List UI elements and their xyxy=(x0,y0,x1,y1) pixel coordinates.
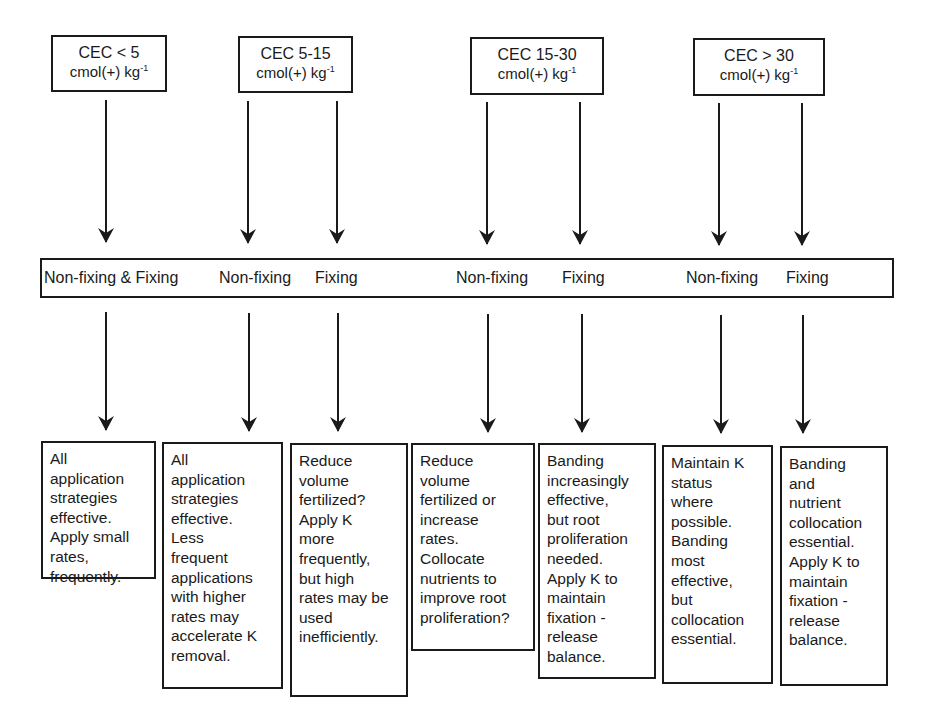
cec-box-gt30: CEC > 30 cmol(+) kg-1 xyxy=(693,38,825,96)
cec-box-lt5: CEC < 5 cmol(+) kg-1 xyxy=(51,35,167,92)
cec-unit: cmol(+) kg-1 xyxy=(695,65,823,84)
cec-label: CEC > 30 xyxy=(695,46,823,65)
clay-type-label: Fixing xyxy=(562,269,605,287)
cec-box-5-15: CEC 5-15 cmol(+) kg-1 xyxy=(238,36,353,93)
clay-type-label: Fixing xyxy=(786,269,829,287)
cec-label: CEC 15-30 xyxy=(472,45,602,64)
recommendation-box-4: Reduce volume fertilized or increase rat… xyxy=(411,443,535,651)
cec-box-15-30: CEC 15-30 cmol(+) kg-1 xyxy=(470,37,604,95)
recommendation-box-7: Banding and nutrient collocation essenti… xyxy=(780,446,888,686)
cec-unit: cmol(+) kg-1 xyxy=(240,63,351,82)
clay-type-bar: Non-fixing & Fixing Non-fixing Fixing No… xyxy=(40,258,894,298)
bottom-arrows xyxy=(106,312,803,433)
cec-label: CEC 5-15 xyxy=(240,44,351,63)
cec-label: CEC < 5 xyxy=(53,43,165,62)
recommendation-box-1: All application strategies effective. Ap… xyxy=(41,441,156,579)
recommendation-box-3: Reduce volume fertilized? Apply K more f… xyxy=(290,443,408,697)
cec-unit: cmol(+) kg-1 xyxy=(53,62,165,81)
clay-type-label: Non-fixing xyxy=(686,269,758,287)
top-arrows xyxy=(106,100,802,245)
clay-type-label: Fixing xyxy=(315,269,358,287)
recommendation-box-6: Maintain K status where possible. Bandin… xyxy=(662,445,773,684)
cec-unit: cmol(+) kg-1 xyxy=(472,64,602,83)
clay-type-label: Non-fixing & Fixing xyxy=(44,269,178,287)
clay-type-label: Non-fixing xyxy=(219,269,291,287)
clay-type-label: Non-fixing xyxy=(456,269,528,287)
recommendation-box-5: Banding increasingly effective, but root… xyxy=(538,443,656,679)
recommendation-box-2: All application strategies effective. Le… xyxy=(162,442,283,689)
